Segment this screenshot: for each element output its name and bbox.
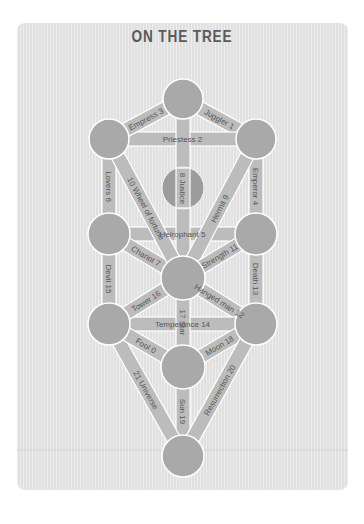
path-label: Resurrection 20 <box>202 363 237 417</box>
node-lower-center <box>161 345 205 389</box>
node-bottom <box>162 435 204 477</box>
path-label: Emperor 4 <box>251 168 260 206</box>
node-right-middle <box>235 213 277 255</box>
path-label: Hanged man 12 <box>193 282 246 320</box>
path-label: 8 Justice <box>178 173 187 205</box>
path-label: Sun 19 <box>178 399 187 425</box>
node-top <box>163 79 203 119</box>
node-left-middle <box>88 213 130 255</box>
path-label: Devil 15 <box>104 265 113 294</box>
path-label: Death 13 <box>251 263 260 296</box>
path-label: Lovers 6 <box>104 171 113 202</box>
node-right-upper <box>236 119 276 159</box>
path-label: 17 Star <box>178 310 187 336</box>
path-label: Priestess 2 <box>163 135 203 144</box>
tree-of-life-diagram: Juggler 1Priestess 2Empress 3Emperor 4He… <box>0 0 364 524</box>
node-left-lower <box>88 303 130 345</box>
path-label: Heirophant 5 <box>160 230 206 239</box>
node-left-upper <box>89 119 129 159</box>
